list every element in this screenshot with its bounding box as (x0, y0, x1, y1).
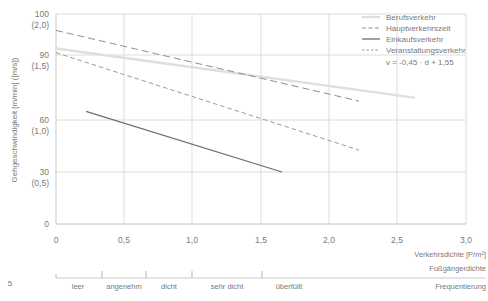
y-tick-30-alt: (0,5) (32, 178, 50, 188)
chart-figure: 100 (2,0) 90 (1,5) 60 (1,0) 30 (0,5) 0 G… (0, 0, 488, 301)
y-tick-60-alt: (1,0) (32, 126, 50, 136)
legend-label-hauptverkehrszeit: Hauptverkehrszeit (386, 24, 451, 33)
y-tick-100-alt: (2,0) (32, 20, 50, 30)
y-tick-60: 60 (40, 115, 50, 125)
scale-label-frequentierung: Frequentierung (435, 282, 486, 291)
x-tick-0: 0 (54, 235, 59, 245)
legend-label-einkaufsverkehr: Einkaufsverkehr (386, 35, 444, 44)
ruler-category-leer: leer (72, 282, 85, 291)
x-axis-ticklabels: 0 0,5 1,0 1,5 2,0 2,5 3,0 (54, 235, 473, 245)
y-tick-30: 30 (40, 167, 50, 177)
x-axis-title: Verkehrsdichte [P/m²] (414, 250, 486, 259)
series-line-veranstaltungsverkehr (56, 53, 359, 150)
y-axis-title: Gehgeschwindigkeit [m/min] ([m/s]) (10, 57, 19, 182)
y-tick-100: 100 (35, 9, 49, 19)
ruler-category-angenehm: angenehm (106, 282, 141, 291)
legend-label-veranstaltungsverkehr: Veranstaltungsverkehr (386, 46, 466, 55)
chart-svg: 100 (2,0) 90 (1,5) 60 (1,0) 30 (0,5) 0 G… (0, 0, 488, 301)
y-tick-90-alt: (1,5) (32, 61, 50, 71)
page-number: 5 (8, 279, 13, 288)
series-line-hauptverkehrszeit (56, 30, 359, 101)
ruler-category-ueberfuellt: überfüllt (276, 282, 304, 291)
x-tick-05: 0,5 (118, 235, 130, 245)
y-axis-ticklabels: 100 (2,0) 90 (1,5) 60 (1,0) 30 (0,5) 0 (32, 9, 50, 229)
x-tick-25: 2,5 (391, 235, 403, 245)
secondary-scale-ruler: Fußgängerdichte leer angenehm dicht sehr… (56, 264, 486, 291)
scale-label-fussgaengerdichte: Fußgängerdichte (429, 264, 486, 273)
legend-label-berufsverkehr: Berufsverkehr (386, 13, 436, 22)
x-tick-20: 2,0 (323, 235, 335, 245)
x-tick-30: 3,0 (460, 235, 472, 245)
y-tick-0: 0 (44, 219, 49, 229)
ruler-category-dicht: dicht (161, 282, 178, 291)
ruler-category-sehr-dicht: sehr dicht (211, 282, 244, 291)
series-line-berufsverkehr (56, 49, 414, 98)
legend-formula: v = -0,45 · d + 1,55 (386, 58, 454, 67)
x-tick-15: 1,5 (255, 235, 267, 245)
x-tick-10: 1,0 (186, 235, 198, 245)
chart-legend: Berufsverkehr Hauptverkehrszeit Einkaufs… (362, 13, 466, 67)
y-tick-90: 90 (40, 50, 50, 60)
